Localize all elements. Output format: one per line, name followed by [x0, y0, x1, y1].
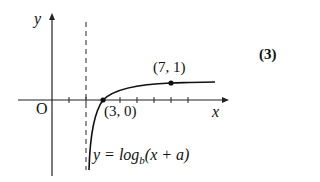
- curve-equation: y = logb(x + a): [93, 146, 189, 166]
- figure-number: (3): [259, 46, 277, 63]
- point-3-0: [100, 97, 105, 102]
- point-label-3-0: (3, 0): [104, 103, 137, 120]
- x-axis-label: x: [212, 103, 219, 121]
- point-7-1: [168, 80, 173, 85]
- equation-prefix: y = log: [93, 146, 139, 163]
- equation-arg: (x + a): [145, 146, 190, 163]
- origin-label: O: [36, 100, 48, 118]
- point-label-7-1: (7, 1): [153, 59, 186, 76]
- y-axis-label: y: [34, 10, 41, 28]
- y-axis-arrow-icon: [49, 13, 55, 20]
- x-axis-arrow-icon: [222, 97, 229, 103]
